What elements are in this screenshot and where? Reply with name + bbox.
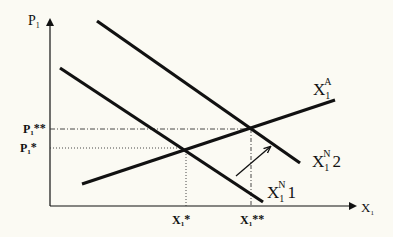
x-axis-label: X1 [361,200,374,217]
supply-curve [82,100,335,184]
x-star-label: X1* [172,212,190,228]
demand-curve-2-label: X1N2 [312,148,341,173]
supply-demand-diagram: P1 X1 P1** P1* X1* X1** X1A X1N2 X1N1 [0,0,393,237]
demand-curve-1-label: X1N1 [267,179,296,204]
p-double-star-label: P1** [23,121,46,137]
diagram-canvas: P1 X1 P1** P1* X1* X1** X1A X1N2 X1N1 [0,0,393,237]
demand-curve-2 [97,21,300,163]
supply-curve-label: X1A [313,76,332,101]
x-double-star-label: X1** [240,212,264,228]
y-axis-label: P1 [28,13,40,30]
p-star-label: P1* [20,140,37,156]
shift-arrow-icon [236,147,270,176]
